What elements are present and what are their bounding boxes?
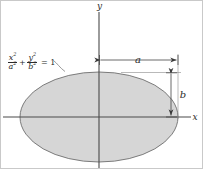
fraction-x-denominator: a2 [8, 63, 18, 71]
equation-right-hand-side: = 1 [41, 59, 55, 67]
x-axis-label: x [192, 112, 197, 122]
y-axis-label: y [96, 1, 103, 11]
plus-operator: + [19, 59, 26, 67]
fraction-y-denominator: b2 [27, 63, 37, 71]
figure-canvas: y x a b [1, 1, 203, 169]
dimension-a-label: a [135, 54, 141, 65]
dimension-b-label: b [180, 89, 186, 100]
ellipse-equation: x2 a2 + y2 b2 = 1 [7, 54, 55, 71]
ellipse-figure: y x a b x2 a2 + y2 b2 = 1 [0, 0, 203, 169]
fraction-y-term: y2 b2 [27, 54, 37, 71]
fraction-x-term: x2 a2 [8, 54, 18, 71]
